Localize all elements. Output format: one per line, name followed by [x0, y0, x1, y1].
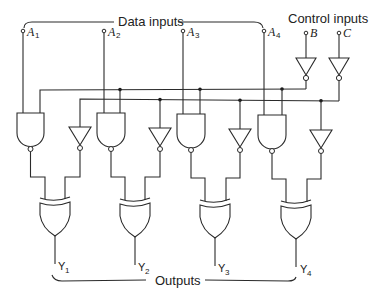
svg-text:B: B — [310, 26, 318, 40]
input-a3: A 3 — [181, 25, 200, 40]
control-inputs-label: Control inputs — [288, 11, 369, 26]
xor-gate-3 — [200, 199, 230, 238]
logic-circuit-diagram: Data inputs Control inputs A 1 A 2 A 3 A… — [0, 0, 374, 300]
output-y4: Y 4 — [300, 263, 312, 278]
inverter-b — [296, 35, 316, 81]
svg-text:4: 4 — [307, 269, 312, 278]
svg-text:3: 3 — [225, 268, 230, 277]
output-y1: Y 1 — [58, 260, 70, 275]
data-input-wires — [23, 33, 264, 115]
svg-text:A: A — [186, 25, 195, 39]
not-gate-3 — [229, 129, 251, 153]
svg-text:1: 1 — [65, 266, 70, 275]
svg-text:2: 2 — [145, 267, 150, 276]
not-gate-2 — [149, 128, 171, 152]
svg-text:A: A — [267, 25, 276, 39]
xor-gate-4 — [281, 200, 311, 239]
nand-gate-4 — [258, 115, 286, 154]
output-wires — [55, 236, 296, 267]
svg-text:4: 4 — [276, 31, 281, 40]
output-y2: Y 2 — [138, 261, 150, 276]
xor-gate-1 — [40, 197, 70, 236]
nand-gate-2 — [97, 113, 125, 152]
svg-text:A: A — [107, 25, 116, 39]
xor-input-wires — [31, 151, 322, 203]
not-gate-1 — [69, 127, 91, 151]
data-inputs-label: Data inputs — [118, 14, 184, 29]
not-gate-4 — [310, 130, 332, 154]
nand-gate-3 — [177, 114, 205, 153]
svg-text:3: 3 — [195, 31, 200, 40]
svg-text:A: A — [26, 25, 35, 39]
xor-gate-2 — [120, 198, 150, 237]
svg-text:2: 2 — [116, 31, 121, 40]
input-a4: A 4 — [262, 25, 281, 40]
inverter-c — [329, 35, 349, 81]
svg-text:C: C — [343, 26, 352, 40]
svg-text:1: 1 — [35, 31, 40, 40]
outputs-label: Outputs — [155, 273, 201, 288]
nand-gate-1 — [17, 113, 44, 152]
output-y3: Y 3 — [218, 262, 230, 277]
